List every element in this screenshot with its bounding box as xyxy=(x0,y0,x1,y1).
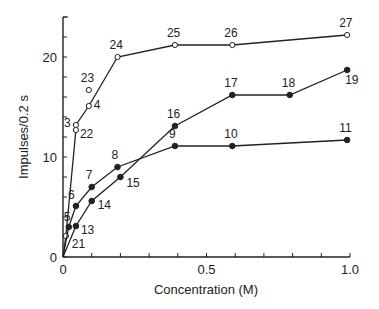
data-point-label: 25 xyxy=(167,26,181,40)
x-tick-label: 0 xyxy=(59,262,66,277)
data-point-label: 14 xyxy=(98,198,112,212)
data-point xyxy=(86,87,91,92)
data-point xyxy=(172,42,177,47)
data-point xyxy=(172,123,178,129)
axes: 00.51.001020 xyxy=(43,17,360,277)
data-point xyxy=(118,174,124,180)
data-point xyxy=(73,127,78,132)
x-axis-title: Concentration (M) xyxy=(154,282,258,297)
series-3: 13141516171819 xyxy=(63,67,359,257)
data-point-label: 16 xyxy=(167,107,181,121)
data-point-label: 26 xyxy=(224,26,238,40)
data-point xyxy=(73,122,78,127)
data-point-label: 19 xyxy=(345,73,359,87)
data-point-label: 7 xyxy=(86,168,93,182)
y-tick-label: 0 xyxy=(50,250,57,265)
data-point-label: 6 xyxy=(68,188,75,202)
data-point xyxy=(115,54,120,59)
data-point xyxy=(89,184,95,190)
data-point xyxy=(115,164,121,170)
data-point-label: 4 xyxy=(94,98,101,112)
data-point-label: 23 xyxy=(81,71,95,85)
data-point xyxy=(73,203,79,209)
data-point-label: 15 xyxy=(126,176,140,190)
data-point-label: 13 xyxy=(81,223,95,237)
series-line xyxy=(63,70,347,257)
data-point-label: 21 xyxy=(72,237,86,251)
chart: 00.51.001020 212234242526272356789101113… xyxy=(0,0,379,309)
data-point-label: 22 xyxy=(80,127,94,141)
y-tick-label: 10 xyxy=(43,150,57,165)
series-1: 2122342425262723 xyxy=(63,16,353,257)
data-point-label: 8 xyxy=(112,148,119,162)
data-point-label: 10 xyxy=(224,127,238,141)
data-point xyxy=(345,32,350,37)
data-point xyxy=(86,103,91,108)
data-point-label: 17 xyxy=(224,76,238,90)
y-tick-label: 20 xyxy=(43,50,57,65)
data-point xyxy=(230,143,236,149)
y-axis-title: Impulses/0.2 s xyxy=(16,95,31,179)
data-point xyxy=(73,223,79,229)
x-tick-label: 1.0 xyxy=(341,262,359,277)
data-point xyxy=(344,137,350,143)
data-point-label: 18 xyxy=(282,76,296,90)
data-point-label: 3 xyxy=(64,116,71,130)
data-point-label: 5 xyxy=(64,210,71,224)
data-point-label: 11 xyxy=(339,121,352,135)
data-point-label: 24 xyxy=(110,38,124,52)
data-point xyxy=(89,198,95,204)
data-point xyxy=(230,92,236,98)
data-point xyxy=(287,92,293,98)
data-point xyxy=(66,224,72,230)
data-point xyxy=(344,67,350,73)
data-point xyxy=(230,42,235,47)
series-layer: 212234242526272356789101113141516171819 xyxy=(63,16,359,257)
data-point xyxy=(172,143,178,149)
x-tick-label: 0.5 xyxy=(197,262,215,277)
data-point-label: 27 xyxy=(339,16,353,30)
